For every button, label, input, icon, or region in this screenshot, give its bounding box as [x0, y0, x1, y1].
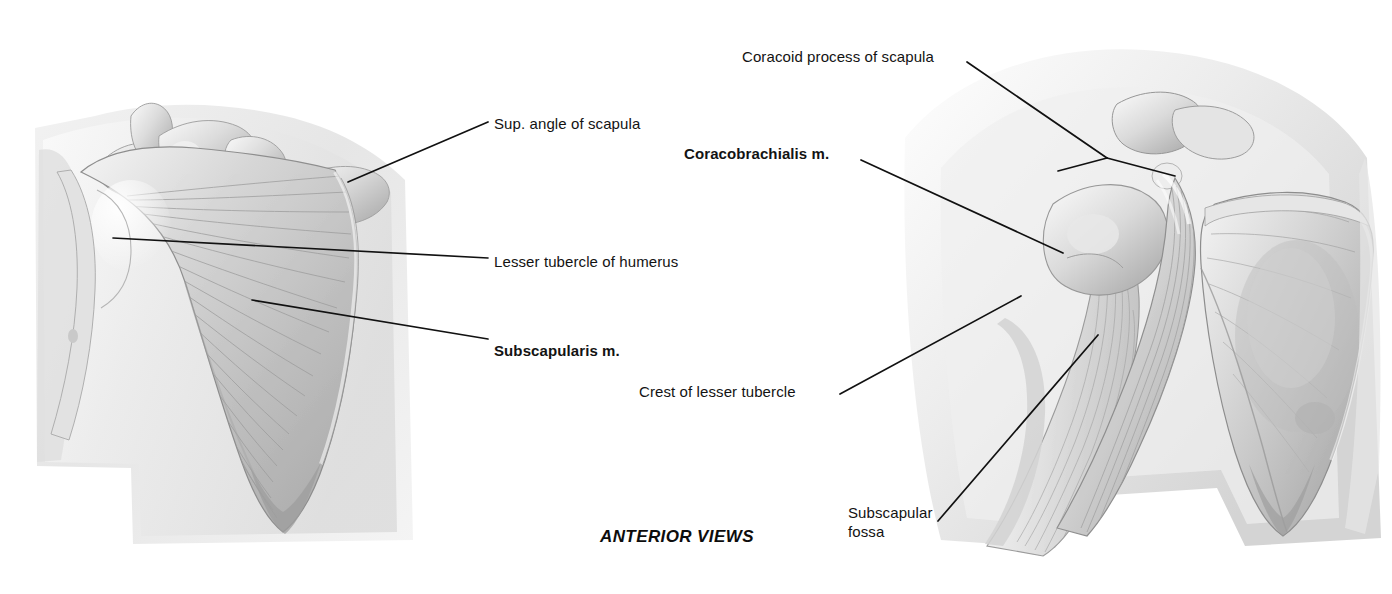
label-coracoid-process-of-scapula: Coracoid process of scapula: [742, 47, 934, 66]
right-panel-illustration: [845, 18, 1390, 558]
label-coracobrachialis-m: Coracobrachialis m.: [684, 144, 829, 163]
anterior-shoulder-coracobrachialis-artwork: [845, 18, 1390, 558]
figure-caption: ANTERIOR VIEWS: [600, 527, 754, 547]
figure-canvas: Sup. angle of scapula Lesser tubercle of…: [0, 0, 1392, 594]
label-subscapularis-m: Subscapularis m.: [494, 341, 620, 360]
label-crest-of-lesser-tubercle: Crest of lesser tubercle: [639, 382, 796, 401]
label-lesser-tubercle-of-humerus: Lesser tubercle of humerus: [494, 252, 678, 271]
label-sup-angle-of-scapula: Sup. angle of scapula: [494, 114, 640, 133]
label-subscapular-fossa: Subscapular fossa: [848, 503, 933, 541]
left-panel-illustration: [35, 20, 420, 550]
anterior-scapula-subscapularis-artwork: [35, 20, 420, 550]
